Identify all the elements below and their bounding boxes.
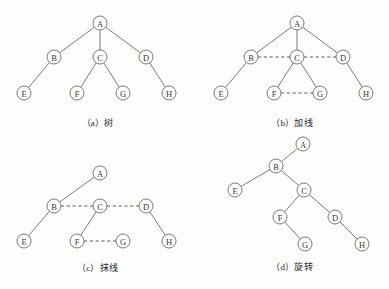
- edge-B-E: [29, 211, 50, 235]
- node-label-C: C: [97, 53, 103, 63]
- panel-b-graph: ABCDEFGH: [195, 4, 389, 134]
- tree-node-G: G: [116, 234, 130, 248]
- node-label-H: H: [166, 89, 172, 99]
- edge-D-H: [347, 63, 362, 87]
- tree-node-B: B: [244, 50, 258, 64]
- tree-node-B: B: [47, 50, 61, 64]
- panel-c-graph: ABCDEFGH: [0, 148, 195, 278]
- edge-D-H: [150, 63, 165, 87]
- edge-A-B: [60, 27, 95, 53]
- edge-D-H: [150, 212, 165, 235]
- tree-node-F: F: [273, 210, 287, 224]
- panel-b: ABCDEFGH（b）加线: [195, 4, 389, 134]
- edge-C-G: [301, 63, 316, 87]
- node-label-A: A: [294, 19, 301, 29]
- tree-node-F: F: [70, 86, 84, 100]
- node-label-B: B: [51, 53, 57, 63]
- node-label-E: E: [232, 186, 237, 196]
- edge-B-C: [281, 171, 298, 186]
- tree-node-C: C: [290, 50, 304, 64]
- node-label-D: D: [143, 202, 149, 212]
- node-label-G: G: [120, 237, 126, 247]
- node-label-F: F: [75, 89, 80, 99]
- tree-node-C: C: [93, 50, 107, 64]
- panel-d: ABECFDGH（d）旋转: [195, 132, 389, 278]
- node-label-B: B: [273, 162, 279, 172]
- edge-B-E: [241, 170, 270, 187]
- panel-c: ABCDEFGH（c）抹线: [0, 148, 195, 278]
- node-label-E: E: [21, 237, 26, 247]
- node-label-E: E: [218, 89, 223, 99]
- node-label-G: G: [317, 89, 323, 99]
- tree-node-G: G: [298, 237, 312, 251]
- tree-node-E: E: [214, 86, 228, 100]
- tree-node-F: F: [267, 86, 281, 100]
- edge-C-F: [81, 212, 96, 235]
- tree-node-D: D: [328, 210, 342, 224]
- node-label-G: G: [120, 89, 126, 99]
- tree-node-H: H: [162, 234, 176, 248]
- edge-C-F: [278, 63, 293, 87]
- node-label-G: G: [302, 240, 308, 250]
- edge-A-B: [257, 27, 292, 53]
- tree-node-H: H: [355, 237, 369, 251]
- tree-node-G: G: [116, 86, 130, 100]
- node-label-F: F: [272, 89, 277, 99]
- tree-node-A: A: [296, 137, 310, 151]
- tree-node-H: H: [359, 86, 373, 100]
- tree-node-F: F: [70, 234, 84, 248]
- tree-node-G: G: [313, 86, 327, 100]
- edge-B-E: [28, 62, 49, 87]
- edge-D-H: [340, 222, 357, 239]
- tree-node-D: D: [139, 199, 153, 213]
- node-label-A: A: [300, 140, 307, 150]
- tree-node-E: E: [17, 234, 31, 248]
- node-label-E: E: [21, 89, 26, 99]
- tree-node-A: A: [93, 16, 107, 30]
- edge-A-D: [303, 27, 338, 53]
- edge-C-D: [309, 195, 329, 213]
- tree-node-D: D: [139, 50, 153, 64]
- tree-node-A: A: [290, 16, 304, 30]
- edge-A-B: [60, 177, 95, 202]
- edge-C-G: [104, 63, 119, 87]
- node-label-D: D: [340, 53, 346, 63]
- panel-d-graph: ABECFDGH: [195, 132, 389, 278]
- edge-A-B: [281, 148, 297, 161]
- tree-node-C: C: [297, 183, 311, 197]
- tree-node-A: A: [93, 166, 107, 180]
- node-label-F: F: [278, 213, 283, 223]
- tree-node-D: D: [336, 50, 350, 64]
- edge-C-F: [81, 63, 96, 87]
- node-label-B: B: [248, 53, 254, 63]
- edge-F-G: [285, 222, 300, 239]
- node-label-H: H: [166, 237, 172, 247]
- figure-canvas: ABCDEFGH（a）树ABCDEFGH（b）加线ABCDEFGH（c）抹线AB…: [0, 0, 389, 289]
- node-label-C: C: [97, 202, 103, 212]
- node-label-H: H: [359, 240, 365, 250]
- node-label-C: C: [294, 53, 300, 63]
- edge-A-D: [106, 27, 141, 53]
- tree-node-B: B: [47, 199, 61, 213]
- panel-a-caption: （a）树: [0, 116, 195, 129]
- node-label-F: F: [75, 237, 80, 247]
- panel-b-caption: （b）加线: [195, 116, 389, 129]
- tree-node-H: H: [162, 86, 176, 100]
- node-label-C: C: [301, 186, 307, 196]
- tree-node-C: C: [93, 199, 107, 213]
- node-label-H: H: [363, 89, 369, 99]
- panel-c-caption: （c）抹线: [0, 261, 195, 274]
- panel-d-caption: （d）旋转: [195, 260, 389, 273]
- tree-node-E: E: [17, 86, 31, 100]
- edge-B-E: [225, 62, 246, 87]
- node-label-D: D: [143, 53, 149, 63]
- panel-a: ABCDEFGH（a）树: [0, 4, 195, 134]
- tree-node-B: B: [269, 159, 283, 173]
- tree-node-E: E: [228, 183, 242, 197]
- node-label-B: B: [51, 202, 57, 212]
- edge-C-F: [285, 195, 300, 212]
- node-label-D: D: [332, 213, 338, 223]
- node-label-A: A: [97, 169, 104, 179]
- panel-a-graph: ABCDEFGH: [0, 4, 195, 134]
- node-label-A: A: [97, 19, 104, 29]
